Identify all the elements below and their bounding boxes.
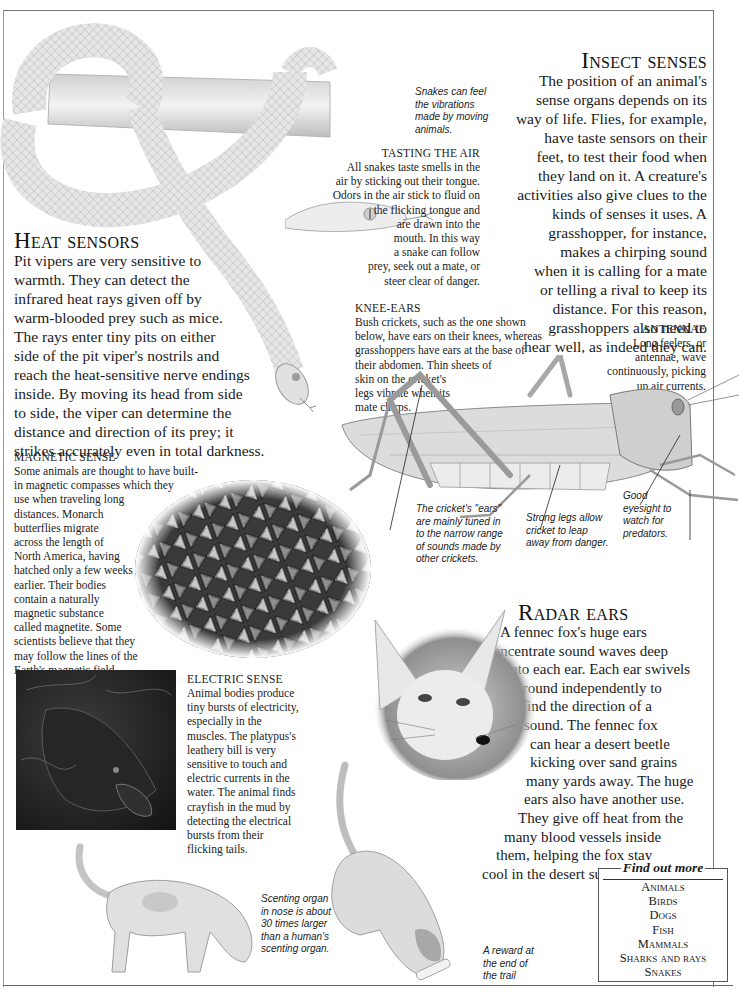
- bloodhound-puppy-illustration: [320, 760, 470, 990]
- knee-ears-heading: KNEE-EARS: [355, 301, 595, 315]
- snake-vibrations-caption: Snakes can feel the vibrations made by m…: [415, 86, 495, 136]
- magnetic-sense-heading: MAGNETIC SENSE: [14, 450, 204, 464]
- find-out-more-link-dogs[interactable]: Dogs: [599, 908, 727, 922]
- find-out-more-link-sharks-and-rays[interactable]: Sharks and rays: [599, 951, 727, 965]
- find-out-more-link-animals[interactable]: Animals: [599, 880, 727, 894]
- electric-sense-heading: ELECTRIC SENSE: [187, 672, 327, 686]
- bloodhound-walking-illustration: [70, 842, 260, 977]
- scenting-organ-caption: Scenting organ in nose is about 30 times…: [261, 893, 351, 956]
- antennae-heading: ANTENNAE: [590, 322, 706, 336]
- heat-sensors-body: Pit vipers are very sensitive to warmth.…: [14, 251, 314, 460]
- tasting-the-air-body: All snakes taste smells in the air by st…: [320, 160, 480, 288]
- electric-sense-section: ELECTRIC SENSE Animal bodies produce tin…: [187, 672, 327, 856]
- monarch-butterflies-photo: [133, 478, 373, 660]
- find-out-more-list: Animals Birds Dogs Fish Mammals Sharks a…: [599, 880, 727, 979]
- cricket-eyes-caption: Good eyesight to watch for predators.: [623, 490, 693, 540]
- find-out-more-title: Find out more: [599, 860, 727, 876]
- find-out-more-link-snakes[interactable]: Snakes: [599, 965, 727, 979]
- fennec-fox-photo: [365, 590, 535, 780]
- heat-sensors-section: Heat sensors Pit vipers are very sensiti…: [14, 228, 314, 460]
- find-out-more-link-birds[interactable]: Birds: [599, 894, 727, 908]
- electric-sense-body: Animal bodies produce tiny bursts of ele…: [187, 686, 327, 856]
- find-out-more-link-mammals[interactable]: Mammals: [599, 937, 727, 951]
- cricket-ears-caption: The cricket's "ears" are mainly tuned in…: [416, 503, 526, 566]
- reward-caption: A reward at the end of the trail: [483, 945, 553, 983]
- find-out-more-rule: [603, 879, 723, 880]
- find-out-more-box: Find out more Animals Birds Dogs Fish Ma…: [598, 868, 728, 982]
- platypus-photo: [16, 670, 176, 830]
- tasting-the-air-heading: TASTING THE AIR: [320, 146, 480, 160]
- tasting-the-air-section: TASTING THE AIR All snakes taste smells …: [320, 146, 480, 288]
- find-out-more-link-fish[interactable]: Fish: [599, 923, 727, 937]
- cricket-legs-caption: Strong legs allow cricket to leap away f…: [526, 512, 626, 550]
